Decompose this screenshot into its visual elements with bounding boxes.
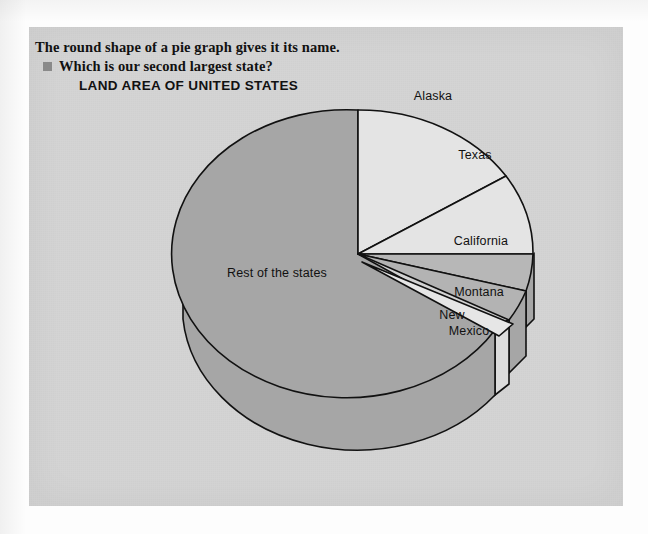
pie-label-texas: Texas — [458, 148, 491, 162]
pie-label-alaska: Alaska — [414, 89, 452, 103]
pie-label-rest-of-states: Rest of the states — [227, 266, 327, 280]
caption-line-1: The round shape of a pie graph gives it … — [35, 38, 555, 56]
gray-square-bullet-icon — [43, 62, 52, 71]
pie-label-california: California — [454, 234, 508, 248]
chart-title: LAND AREA OF UNITED STATES — [79, 78, 298, 93]
textbook-figure-page: The round shape of a pie graph gives it … — [0, 0, 648, 534]
caption-line-2-row: Which is our second largest state? — [35, 57, 555, 75]
caption-line-2: Which is our second largest state? — [59, 57, 273, 75]
pie-label-new-mexico-line2: Mexico — [449, 324, 490, 338]
caption-block: The round shape of a pie graph gives it … — [35, 38, 555, 75]
pie-label-new-mexico-line1: New — [439, 308, 465, 322]
pie-chart: Alaska Texas California Montana New Mexi… — [29, 27, 623, 506]
pie-chart-svg: Alaska Texas California Montana New Mexi… — [29, 27, 623, 506]
pie-label-montana: Montana — [454, 285, 504, 299]
